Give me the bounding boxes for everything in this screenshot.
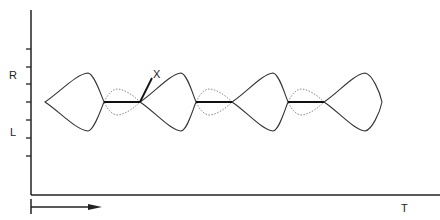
oscillation-diagram: R L T X (0, 0, 440, 220)
label-x: X (153, 68, 161, 80)
lobe-4 (324, 73, 382, 131)
x-pointer-line (140, 78, 152, 102)
label-r: R (9, 69, 17, 81)
lobe-2 (140, 73, 196, 131)
label-t: T (401, 202, 408, 214)
lobe-3 (232, 73, 288, 131)
lobe-1 (45, 73, 104, 131)
label-l: L (10, 126, 16, 138)
arrowhead-icon (88, 204, 102, 210)
direction-arrow (31, 199, 102, 214)
